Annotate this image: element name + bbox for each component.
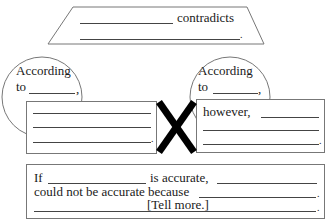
if-label: If: [34, 171, 43, 185]
conclusion-blank-3[interactable]: [199, 197, 316, 198]
conclusion-period-1: .: [317, 187, 320, 201]
is-accurate-label: is accurate,: [150, 171, 208, 185]
conclusion-period-2: .: [317, 201, 320, 215]
tell-more-label: [Tell more.]: [147, 198, 209, 212]
conclusion-blank-2[interactable]: [217, 183, 317, 184]
conclusion-box: If is accurate, could not be accurate be…: [26, 164, 325, 219]
